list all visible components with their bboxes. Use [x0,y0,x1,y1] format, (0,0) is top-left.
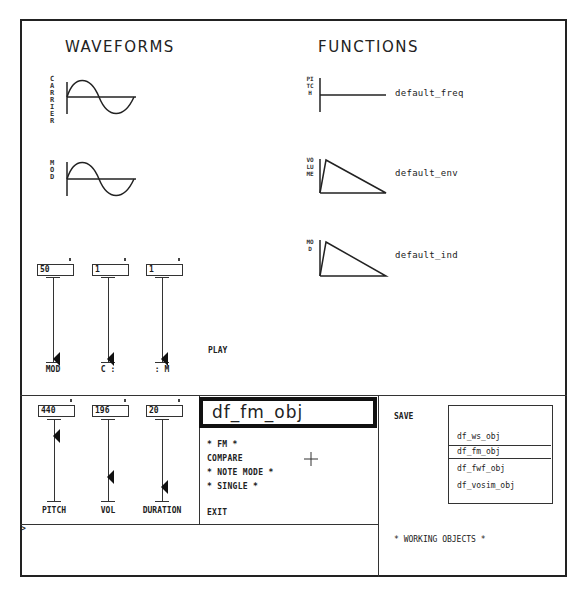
slider-label: DURATION [137,506,187,515]
tick-mark [178,258,180,261]
waveforms-heading: WAVEFORMS [65,38,175,56]
volume-function-graph[interactable] [319,159,389,195]
carrier-waveform[interactable] [66,78,138,118]
slider-track[interactable] [162,277,163,362]
carrier-axis-label: CARRIER [48,76,56,125]
slider-label: MOD [28,365,78,374]
command-divider [20,524,378,525]
slider-thumb[interactable] [161,352,168,366]
functions-heading: FUNCTIONS [318,38,419,56]
tick-mark [124,399,126,402]
menu-item-single[interactable]: * SINGLE * [207,482,258,491]
slider-thumb[interactable] [107,470,114,484]
slider-track[interactable] [53,277,54,362]
function-name-freq: default_freq [395,88,464,98]
slider-value-field[interactable]: 1 [146,264,183,276]
mod-waveform[interactable] [66,160,138,200]
panel-divider-right [378,395,379,577]
slider-track[interactable] [108,277,109,362]
mod-index-function-graph[interactable] [319,240,389,276]
menu-item-note-mode[interactable]: * NOTE MODE * [207,468,274,477]
slider-label: PITCH [29,506,79,515]
working-objects-caption: * WORKING OBJECTS * [394,535,486,544]
object-title-box: df_fm_obj [199,397,377,428]
list-item-selected[interactable]: df_fm_obj [457,447,500,456]
slider-value-field[interactable]: 196 [92,405,129,417]
working-objects-list[interactable]: df_ws_obj df_fm_obj df_fwf_obj df_vosim_… [448,405,553,504]
menu-item-exit[interactable]: EXIT [207,508,227,517]
slider-bottom-cap [155,501,169,502]
tick-mark [124,258,126,261]
volume-axis-label: VOLUME [306,156,314,177]
slider-thumb[interactable] [161,480,168,494]
function-name-ind: default_ind [395,250,458,260]
mod-axis-label: MOD [48,160,56,181]
menu-item-fm[interactable]: * FM * [207,440,238,449]
list-item[interactable]: df_vosim_obj [457,481,515,490]
slider-track[interactable] [108,419,109,501]
slider-label: : M [137,365,187,374]
slider-label: C : [83,365,133,374]
command-input[interactable] [30,526,370,574]
function-name-env: default_env [395,168,458,178]
slider-value-field[interactable]: 50 [37,264,74,276]
tick-mark [70,399,72,402]
pitch-function-graph[interactable] [319,78,389,114]
tick-mark [178,399,180,402]
slider-bottom-cap [101,501,115,502]
panel-divider-horizontal [20,395,567,396]
command-prompt: > [21,524,26,533]
save-button[interactable]: SAVE [394,412,413,421]
pitch-axis-label: PITCH [306,75,314,96]
menu-item-compare[interactable]: COMPARE [207,454,243,463]
list-item[interactable]: df_ws_obj [457,432,500,441]
play-button[interactable]: PLAY [208,346,227,355]
slider-thumb[interactable] [53,429,60,443]
tick-mark [69,258,71,261]
slider-label: VOL [83,506,133,515]
slider-thumb[interactable] [53,352,60,366]
mod-index-axis-label: MOD [306,238,314,252]
slider-bottom-cap [47,501,61,502]
slider-value-field[interactable]: 1 [92,264,129,276]
crosshair-cursor-icon [304,452,318,466]
slider-value-field[interactable]: 20 [146,405,183,417]
slider-thumb[interactable] [107,352,114,366]
slider-value-field[interactable]: 440 [38,405,75,417]
list-item[interactable]: df_fwf_obj [457,464,505,473]
